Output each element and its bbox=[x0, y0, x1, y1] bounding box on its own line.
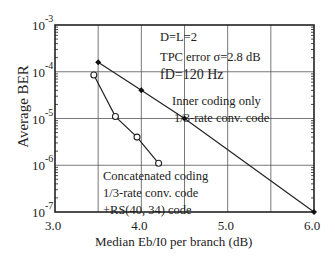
annotation-concat-coding: Concatenated coding bbox=[103, 169, 208, 183]
y-axis-label: Average BER bbox=[15, 62, 32, 152]
annotation-rs-code: +RS(40, 34) code bbox=[103, 203, 192, 217]
annotation-inner-code-rate: 1/3-rate conv. code bbox=[174, 111, 269, 125]
data-point-open bbox=[156, 160, 162, 166]
data-point-open bbox=[91, 72, 97, 78]
data-point-open bbox=[134, 134, 140, 140]
annotation-doppler: fD=120 Hz bbox=[160, 68, 224, 82]
x-axis-label: Median Eb/I0 per branch (dB) bbox=[95, 234, 252, 250]
y-tick-label: 10-4 bbox=[32, 63, 53, 81]
data-point-filled bbox=[95, 59, 101, 65]
annotation-inner-coding: Inner coding only bbox=[172, 94, 261, 108]
x-tick-label: 6.0 bbox=[304, 218, 320, 234]
data-point-filled bbox=[138, 87, 144, 93]
series-concatenated-coding bbox=[91, 72, 162, 166]
annotation-diversity: D=L=2 bbox=[160, 30, 197, 44]
x-tick-label: 5.0 bbox=[218, 218, 234, 234]
x-tick-label: 3.0 bbox=[45, 218, 61, 234]
y-tick-label: 10-5 bbox=[32, 110, 53, 128]
annotation-concat-code-rate: 1/3-rate conv. code bbox=[103, 186, 198, 200]
y-tick-label: 10-3 bbox=[32, 16, 53, 34]
annotation-tpc-error: TPC error σ=2.8 dB bbox=[160, 50, 261, 64]
data-point-open bbox=[112, 114, 118, 120]
x-tick-label: 4.0 bbox=[131, 218, 147, 234]
y-tick-label: 10-6 bbox=[32, 156, 53, 174]
